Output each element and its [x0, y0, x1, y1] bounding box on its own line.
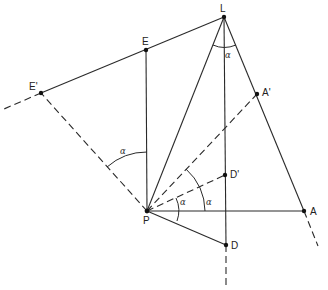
line-L-Eprime — [41, 17, 224, 93]
angle-arc-at-P-upper — [107, 152, 147, 167]
label-L: L — [220, 3, 226, 14]
angle-arc-at-P-outer — [186, 169, 205, 211]
label-Aprime: A' — [262, 87, 271, 98]
line-E-P — [146, 50, 147, 211]
alpha-label-at-P-inner: α — [180, 197, 186, 207]
alpha-label-at-L: α — [225, 50, 231, 60]
angle-arc-at-P-inner — [176, 198, 179, 221]
geometry-diagram: α α α α L E E' A' D' P A D — [0, 0, 328, 290]
dashed-P-Eprime — [41, 93, 147, 211]
line-L-A — [224, 17, 304, 211]
label-A: A — [310, 206, 317, 217]
point-D — [224, 243, 228, 247]
alpha-label-at-P-upper: α — [120, 146, 126, 156]
point-P — [145, 209, 150, 214]
point-E — [144, 48, 148, 52]
label-P: P — [143, 215, 150, 226]
point-A — [302, 209, 306, 213]
label-Dprime: D' — [230, 169, 239, 180]
alpha-label-at-P-outer: α — [206, 197, 212, 207]
point-Aprime — [255, 92, 259, 96]
point-Eprime — [39, 91, 43, 95]
point-Dprime — [223, 173, 227, 177]
label-D: D — [231, 240, 238, 251]
label-Eprime: E' — [29, 81, 38, 92]
dashed-Eprime-extension — [4, 93, 41, 109]
line-L-P — [147, 17, 224, 211]
label-E: E — [142, 36, 149, 47]
line-P-D — [147, 211, 226, 245]
point-L — [222, 15, 226, 19]
